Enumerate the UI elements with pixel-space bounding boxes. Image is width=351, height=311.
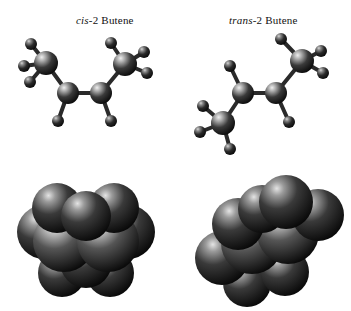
cis-space-filling-model bbox=[17, 183, 155, 297]
trans-space-filling-model bbox=[195, 175, 344, 307]
trans-ball-stick-model bbox=[194, 33, 329, 155]
cis-ball-stick-model bbox=[18, 37, 153, 127]
models-canvas bbox=[0, 0, 351, 311]
molecular-models-figure: cis-2 Butene trans-2 Butene bbox=[0, 0, 351, 311]
cis-carbon-atoms bbox=[34, 51, 137, 104]
